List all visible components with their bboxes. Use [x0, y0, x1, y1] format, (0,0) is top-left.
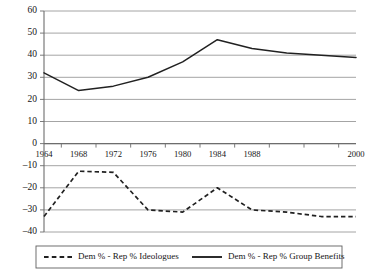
gridlines-group — [44, 11, 356, 232]
x-tick-label-1968: 1968 — [70, 149, 87, 159]
x-tick-label-2000: 2000 — [347, 149, 364, 159]
x-axis-ticks-group — [61, 144, 338, 148]
x-tick-label-1988: 1988 — [243, 149, 260, 159]
chart-legend: Dem % - Rep % Ideologues Dem % - Rep % G… — [36, 246, 345, 268]
y-tick-label: 60 — [28, 5, 38, 15]
legend-label-group-benefits: Dem % - Rep % Group Benefits — [228, 251, 345, 261]
y-tick-label: –30 — [22, 204, 38, 214]
y-tick-label: –10 — [22, 160, 38, 170]
y-tick-label: –40 — [22, 226, 38, 236]
y-tick-label: 50 — [28, 27, 38, 37]
y-tick-label: 0 — [32, 138, 37, 148]
x-axis-labels-group: 19641968197219761980198419882000 — [35, 149, 364, 159]
y-tick-label: 40 — [28, 49, 38, 59]
y-tick-label: –20 — [22, 182, 38, 192]
y-tick-label: 30 — [28, 71, 38, 81]
line-chart: 6050403020100–10–20–30–40 19641968197219… — [0, 0, 365, 274]
series-line-group-benefits — [44, 40, 356, 91]
y-tick-label: 10 — [28, 116, 38, 126]
x-tick-label-1976: 1976 — [139, 149, 157, 159]
y-axis-labels-group: 6050403020100–10–20–30–40 — [22, 5, 44, 236]
x-tick-label-1984: 1984 — [209, 149, 227, 159]
y-tick-label: 20 — [28, 94, 38, 104]
x-tick-label-1980: 1980 — [174, 149, 191, 159]
chart-figure: 6050403020100–10–20–30–40 19641968197219… — [0, 0, 365, 274]
x-tick-label-1972: 1972 — [105, 149, 122, 159]
legend-label-ideologues: Dem % - Rep % Ideologues — [78, 251, 179, 261]
